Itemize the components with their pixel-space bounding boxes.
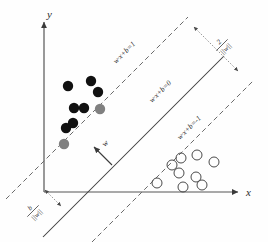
data-point-positive (93, 87, 103, 97)
svm-margin-figure: y x w·x+b=1 w·x+b=0 w·x+b=-1 2 ||w|| b |… (0, 0, 268, 242)
upper-margin-label: w·x+b=1 (111, 39, 137, 65)
data-point-positive (86, 76, 96, 86)
data-point-negative (192, 150, 202, 160)
negative-support-vectors (152, 160, 177, 188)
negative-class-points (174, 150, 219, 192)
lower-margin-line-group: w·x+b=-1 (92, 80, 254, 242)
data-point-positive (68, 118, 78, 128)
figure-canvas: y x w·x+b=1 w·x+b=0 w·x+b=-1 2 ||w|| b |… (0, 0, 268, 242)
lower-margin-label: w·x+b=-1 (175, 114, 203, 142)
data-point-negative (176, 153, 186, 163)
data-point-negative (197, 180, 207, 190)
support-vector-negative (152, 178, 162, 188)
data-point-positive (79, 103, 89, 113)
normal-vector-label: w (100, 138, 111, 149)
normal-vector-group: w (94, 138, 112, 165)
positive-class-points (61, 76, 103, 133)
x-axis-label: x (245, 186, 251, 198)
data-point-positive (63, 81, 73, 91)
data-point-negative (174, 168, 184, 178)
y-axis-label: y (46, 8, 52, 20)
support-vector-positive (59, 139, 69, 149)
lower-margin-line (92, 80, 254, 242)
data-point-positive (69, 103, 79, 113)
normal-vector-arrow (94, 147, 112, 165)
support-vector-positive (95, 104, 105, 114)
decision-boundary-label: w·x+b=0 (147, 78, 173, 104)
origin-offset-measure: b ||w|| (22, 190, 61, 223)
data-point-negative (209, 157, 219, 167)
data-point-negative (178, 182, 188, 192)
